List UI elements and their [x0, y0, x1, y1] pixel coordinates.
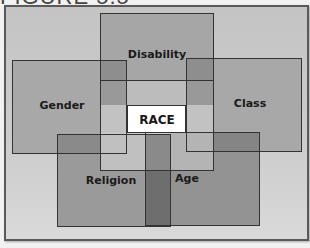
age-label: Age: [175, 172, 199, 185]
disability-label: Disability: [128, 48, 187, 61]
gender-label: Gender: [39, 99, 84, 112]
race-label: RACE: [139, 113, 175, 127]
religion-label: Religion: [86, 174, 137, 187]
diagram-frame: Disability Gender Class RACE Religion Ag…: [4, 5, 309, 241]
age-box: [145, 132, 260, 226]
class-label: Class: [234, 97, 266, 110]
